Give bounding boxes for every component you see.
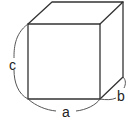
- width-brace-right: [76, 99, 100, 111]
- top-face: [28, 2, 123, 24]
- front-face: [28, 24, 100, 99]
- width-label: a: [62, 104, 70, 120]
- height-brace-top: [14, 24, 28, 58]
- width-brace-left: [28, 99, 56, 111]
- cube-diagram: c a b: [0, 0, 136, 123]
- right-face: [100, 2, 123, 99]
- depth-brace-left: [100, 98, 116, 100]
- height-brace-bottom: [14, 70, 28, 99]
- depth-brace-right: [123, 77, 125, 88]
- height-label: c: [9, 57, 16, 73]
- depth-label: b: [117, 88, 125, 104]
